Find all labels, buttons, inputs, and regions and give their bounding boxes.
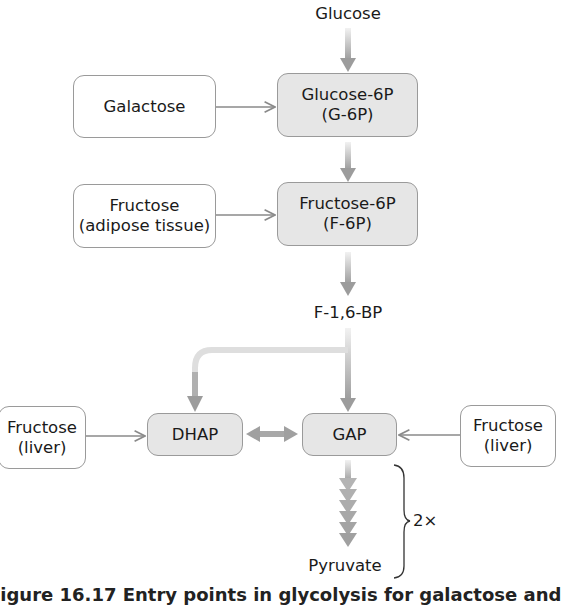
node-fructose-liver-left-name: Fructose: [7, 418, 77, 438]
figure-caption: Figure 16.17 Entry points in glycolysis …: [0, 584, 561, 605]
node-fructose-liver-right-name: Fructose: [473, 416, 543, 436]
node-galactose-label: Galactose: [104, 97, 186, 117]
arrow-glucose-to-g6p: [340, 28, 356, 72]
node-dhap-label: DHAP: [172, 425, 218, 445]
node-galactose: Galactose: [73, 75, 216, 138]
node-g6p: Glucose-6P (G-6P): [277, 73, 418, 137]
brace-icon: [394, 465, 410, 578]
node-pyruvate: Pyruvate: [300, 556, 390, 575]
node-fructose-adipose-tissue: (adipose tissue): [79, 216, 210, 236]
node-f6p-name: Fructose-6P: [299, 194, 395, 214]
node-fructose-adipose: Fructose (adipose tissue): [73, 184, 216, 248]
node-g6p-name: Glucose-6P: [301, 85, 393, 105]
node-g6p-abbr: (G-6P): [321, 105, 373, 125]
arrow-f16bp-to-gap: [340, 328, 356, 412]
node-fructose-liver-left: Fructose (liver): [0, 406, 86, 469]
node-gap: GAP: [302, 413, 397, 456]
arrow-f6p-to-f16bp: [340, 252, 356, 296]
node-glucose: Glucose: [308, 4, 388, 23]
node-fructose-adipose-name: Fructose: [110, 196, 180, 216]
node-gap-label: GAP: [332, 425, 366, 445]
multiplier-label: 2×: [413, 511, 437, 530]
node-fructose-liver-right-organ: (liver): [484, 436, 533, 456]
node-f6p: Fructose-6P (F-6P): [277, 182, 418, 246]
arrow-dhap-gap-equilibrium: [246, 426, 298, 442]
node-f6p-abbr: (F-6P): [323, 214, 372, 234]
arrow-g6p-to-f6p: [340, 142, 356, 182]
arrow-f16bp-to-dhap: [187, 350, 348, 412]
node-fructose-liver-left-organ: (liver): [18, 438, 67, 458]
node-f16bp: F-1,6-BP: [298, 303, 398, 322]
arrow-gap-to-pyruvate-multistep: [339, 460, 357, 547]
node-dhap: DHAP: [147, 413, 243, 456]
node-fructose-liver-right: Fructose (liver): [460, 405, 556, 467]
